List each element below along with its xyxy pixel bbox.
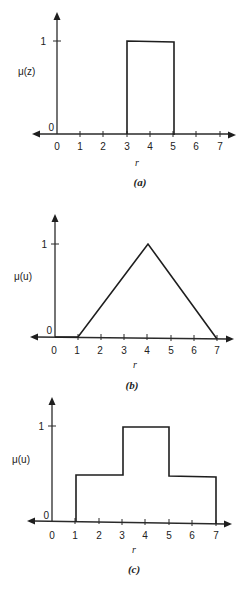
svg-text:5: 5 <box>170 141 176 152</box>
y-tick-label-1: 1 <box>41 239 47 250</box>
y-axis-label: μ(u) <box>12 454 30 465</box>
svg-text:4: 4 <box>142 530 148 541</box>
caption-b: (b) <box>126 379 139 392</box>
svg-text:0: 0 <box>49 530 55 541</box>
chart-b: 1 0 0 1 2 3 4 5 6 7 μ(u) r (b) <box>14 214 234 392</box>
y-tick-label-0: 0 <box>48 122 54 133</box>
svg-text:6: 6 <box>191 345 197 356</box>
x-axis-right-arrow-icon <box>224 521 232 528</box>
svg-text:2: 2 <box>96 530 102 541</box>
x-tick-labels: 0 1 2 3 4 5 6 7 <box>51 345 220 356</box>
svg-text:3: 3 <box>124 141 130 152</box>
y-axis-arrow-icon <box>49 397 56 405</box>
svg-text:4: 4 <box>147 141 153 152</box>
svg-text:2: 2 <box>100 141 106 152</box>
y-axis-label: μ(z) <box>18 66 35 77</box>
x-axis-label: r <box>133 359 137 370</box>
svg-text:5: 5 <box>166 530 172 541</box>
svg-text:6: 6 <box>189 530 195 541</box>
y-tick-label-1: 1 <box>38 421 44 432</box>
caption-a: (a) <box>134 176 147 189</box>
y-axis-arrow-icon <box>52 214 59 222</box>
membership-curve <box>76 427 216 524</box>
svg-text:7: 7 <box>213 530 219 541</box>
figure-canvas: 1 0 0 1 2 3 4 5 6 7 μ(z) r (a) <box>0 0 247 590</box>
x-axis-right-arrow-icon <box>226 336 234 343</box>
x-axis <box>33 521 226 524</box>
x-axis-right-arrow-icon <box>228 132 236 139</box>
x-axis-label: r <box>132 544 136 555</box>
x-axis-left-arrow-icon <box>27 518 35 525</box>
y-tick-label-0: 0 <box>43 510 49 521</box>
svg-text:7: 7 <box>217 141 223 152</box>
svg-text:7: 7 <box>214 345 220 356</box>
membership-curve <box>55 244 217 339</box>
svg-text:1: 1 <box>74 345 80 356</box>
x-axis-label: r <box>135 157 139 168</box>
svg-text:6: 6 <box>193 141 199 152</box>
x-tick-labels: 0 1 2 3 4 5 6 7 <box>54 141 223 152</box>
y-tick-label-0: 0 <box>46 325 52 336</box>
svg-text:3: 3 <box>121 345 127 356</box>
membership-curve <box>127 41 174 135</box>
chart-a: 1 0 0 1 2 3 4 5 6 7 μ(z) r (a) <box>18 12 236 189</box>
y-axis-arrow-icon <box>54 12 61 20</box>
svg-text:2: 2 <box>97 345 103 356</box>
x-axis-left-arrow-icon <box>30 334 38 341</box>
svg-text:1: 1 <box>77 141 83 152</box>
svg-text:0: 0 <box>51 345 57 356</box>
y-tick-label-1: 1 <box>40 36 46 47</box>
x-axis-left-arrow-icon <box>32 131 40 138</box>
x-tick-labels: 0 1 2 3 4 5 6 7 <box>49 530 219 541</box>
svg-text:1: 1 <box>72 530 78 541</box>
y-axis-label: μ(u) <box>14 271 32 282</box>
svg-text:5: 5 <box>168 345 174 356</box>
svg-text:4: 4 <box>144 345 150 356</box>
caption-c: (c) <box>128 563 140 576</box>
svg-text:0: 0 <box>54 141 60 152</box>
chart-c: 1 0 0 1 2 3 4 5 6 7 μ(u) r (c) <box>12 397 232 576</box>
svg-text:3: 3 <box>119 530 125 541</box>
